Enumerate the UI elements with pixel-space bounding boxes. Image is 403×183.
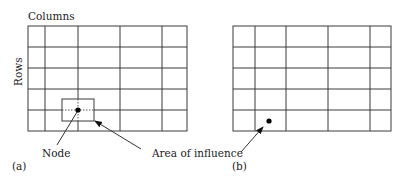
panel-b-label: (b) [232,160,247,172]
grid-b [233,26,391,131]
node-label: Node [42,147,70,159]
grid-a [28,26,187,131]
diagram-canvas: Columns Rows Node Area of influence (a) … [0,0,403,183]
panel-a-label: (a) [12,160,26,172]
area-of-influence-arrow [95,121,141,149]
grid-a-border [28,26,187,131]
grid-b-border [233,26,391,131]
node-point-a [75,107,80,112]
rows-label: Rows [12,57,24,86]
columns-label: Columns [28,10,75,22]
node-point-b [266,118,271,123]
area-of-influence-label: Area of influence [151,147,243,159]
